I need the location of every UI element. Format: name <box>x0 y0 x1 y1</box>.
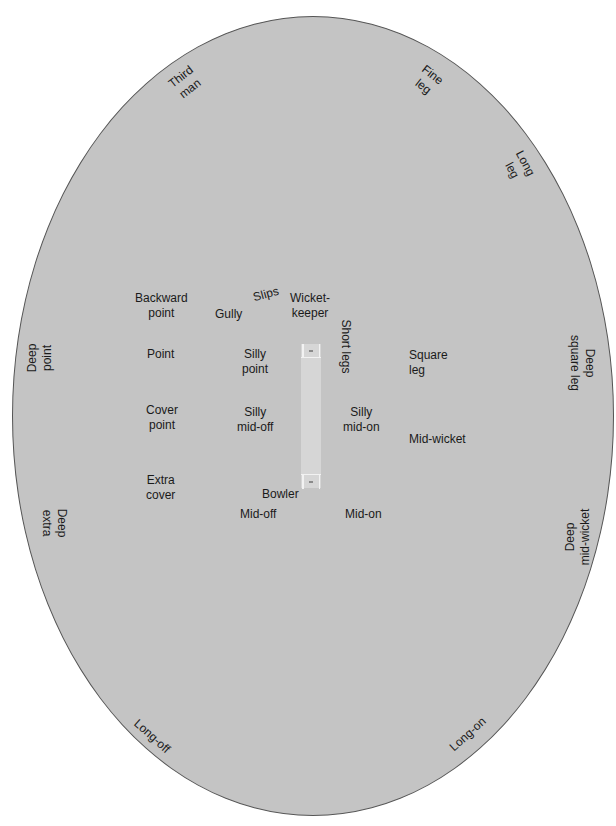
pitch <box>301 344 321 488</box>
label-mid-wicket: Mid-wicket <box>409 432 466 447</box>
label-deep-extra: Deep extra <box>39 509 69 538</box>
label-deep-mid-wicket: Deep mid-wicket <box>563 509 593 566</box>
batting-crease-top <box>301 344 321 358</box>
label-wicket-keeper: Wicket- keeper <box>290 291 330 321</box>
label-gully: Gully <box>215 307 242 322</box>
label-deep-point: Deep point <box>25 344 55 373</box>
label-point: Point <box>147 347 174 362</box>
label-backward-point: Backward point <box>135 291 188 321</box>
label-silly-mid-on: Silly mid-on <box>343 405 380 435</box>
label-square-leg: Square leg <box>409 348 448 378</box>
label-short-legs: Short legs <box>338 319 353 373</box>
label-silly-mid-off: Silly mid-off <box>237 405 273 435</box>
label-cover-point: Cover point <box>146 403 178 433</box>
label-bowler: Bowler <box>262 487 299 502</box>
stumps-bottom-icon <box>309 481 313 483</box>
label-silly-point: Silly point <box>242 347 268 377</box>
label-mid-off: Mid-off <box>240 507 276 522</box>
label-mid-on: Mid-on <box>345 507 382 522</box>
label-extra-cover: Extra cover <box>146 473 175 503</box>
bowling-crease-bottom <box>301 474 321 488</box>
stumps-top-icon <box>309 350 313 352</box>
label-deep-square-leg: Deep square leg <box>567 335 597 391</box>
